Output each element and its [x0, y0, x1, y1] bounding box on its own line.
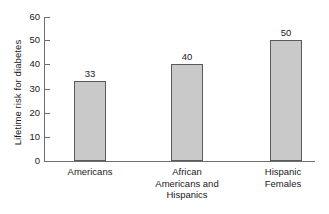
bar-value-americans: 33 [85, 68, 96, 79]
y-tick-40: 40 [44, 64, 50, 65]
y-tick-label-60: 60 [18, 11, 40, 22]
y-tick-30: 30 [44, 89, 50, 90]
x-category-line: Americans and [145, 178, 229, 190]
y-tick-20: 20 [44, 113, 50, 114]
y-tick-50: 50 [44, 40, 50, 41]
y-axis-line [44, 17, 45, 162]
x-category-line: Females [243, 178, 323, 190]
y-tick-10: 10 [44, 137, 50, 138]
x-category-label-african-americans-and-hispanics: African Americans and Hispanics [145, 166, 229, 201]
y-tick-label-0: 0 [18, 155, 40, 166]
y-tick-label-20: 20 [18, 107, 40, 118]
y-tick-0: 0 [44, 161, 50, 162]
bar-value-african-americans-and-hispanics: 40 [182, 51, 193, 62]
x-category-line: Americans [34, 166, 146, 178]
x-category-line: Hispanic [243, 166, 323, 178]
plot-area: 0 10 20 30 40 50 60 33 [44, 17, 315, 162]
y-tick-label-30: 30 [18, 83, 40, 94]
x-category-label-hispanic-females: Hispanic Females [243, 166, 323, 189]
bar-americans: 33 [74, 81, 106, 161]
y-tick-label-10: 10 [18, 131, 40, 142]
bar-value-hispanic-females: 50 [281, 27, 292, 38]
x-axis-line [44, 161, 315, 162]
bar-african-americans-and-hispanics: 40 [171, 64, 203, 161]
bar-chart: Lifetime risk for diabetes 0 10 20 30 40… [0, 0, 329, 214]
y-tick-label-50: 50 [18, 34, 40, 45]
y-tick-60: 60 [44, 17, 50, 18]
x-category-line: African [145, 166, 229, 178]
y-tick-label-40: 40 [18, 58, 40, 69]
bar-hispanic-females: 50 [270, 40, 302, 161]
x-category-label-americans: Americans [34, 166, 146, 178]
x-category-line: Hispanics [145, 189, 229, 201]
